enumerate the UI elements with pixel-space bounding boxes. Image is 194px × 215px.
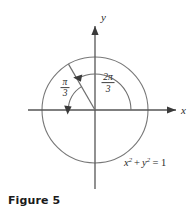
unit-circle-diagram: y x π 3 2π 3 x2+y2=1: [0, 0, 194, 195]
equation-equals: =: [153, 157, 159, 168]
reference-angle-denominator: 3: [62, 88, 68, 98]
figure-container: y x π 3 2π 3 x2+y2=1 Figure: [0, 0, 194, 215]
circle-equation: x2+y2=1: [123, 156, 166, 168]
equation-plus: +: [134, 157, 140, 168]
standard-angle-denominator: 3: [105, 84, 111, 94]
svg-text:x2+y2=1: x2+y2=1: [123, 156, 166, 168]
equation-value: 1: [161, 157, 166, 168]
x-axis-arrow-icon: [167, 106, 176, 113]
y-axis-label: y: [100, 11, 106, 23]
equation-exp-y: 2: [147, 156, 151, 163]
standard-angle-numerator: 2π: [103, 72, 113, 82]
reference-angle-numerator: π: [63, 77, 68, 87]
equation-exp-x: 2: [129, 156, 133, 163]
figure-caption: Figure 5: [8, 194, 60, 207]
reference-angle-label: π 3: [61, 77, 70, 98]
y-axis-arrow-icon: [91, 26, 98, 35]
standard-angle-label: 2π 3: [102, 72, 115, 94]
x-axis-label: x: [180, 104, 186, 116]
